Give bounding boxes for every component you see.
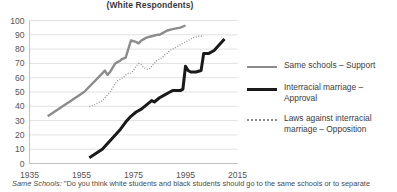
y-tick-label-30: 30 <box>15 116 25 126</box>
footnote-source-label: Same Schools: <box>12 179 62 188</box>
legend-label-same-schools: Same schools – Support <box>284 60 375 71</box>
y-tick-label-40: 40 <box>15 101 25 111</box>
y-tick-label-10: 10 <box>15 144 25 154</box>
legend-item-laws-against: Laws against interracial marriage – Oppo… <box>247 113 397 135</box>
y-tick-label-50: 50 <box>15 87 25 97</box>
chart-page: (White Respondents) 01020304050607080901… <box>0 0 397 192</box>
y-tick-label-20: 20 <box>15 130 25 140</box>
legend-swatch-same-schools <box>247 61 277 73</box>
y-tick-label-0: 0 <box>20 159 25 169</box>
x-tick-label-2015: 2015 <box>228 170 247 180</box>
x-tick-label-1995: 1995 <box>176 170 195 180</box>
y-tick-label-60: 60 <box>15 73 25 83</box>
footnote-text: "Do you think white students and black s… <box>62 179 370 188</box>
legend-swatch-interracial-marriage <box>247 83 277 95</box>
legend-swatch-laws-against <box>247 114 277 126</box>
y-tick-label-100: 100 <box>10 16 25 26</box>
y-tick-labels-group: 0102030405060708090100 <box>10 16 25 169</box>
chart-legend: Same schools – Support Interracial marri… <box>247 60 397 144</box>
y-tick-label-70: 70 <box>15 58 25 68</box>
y-tick-label-90: 90 <box>15 30 25 40</box>
x-tick-label-1975: 1975 <box>124 170 143 180</box>
x-tick-label-1955: 1955 <box>72 170 91 180</box>
legend-label-interracial-marriage: Interracial marriage – Approval <box>284 82 397 104</box>
x-tick-labels-group: 19351955197519952015 <box>20 170 247 180</box>
y-tick-label-80: 80 <box>15 44 25 54</box>
chart-footnote: Same Schools: "Do you think white studen… <box>12 179 397 188</box>
legend-label-laws-against: Laws against interracial marriage – Oppo… <box>284 113 372 135</box>
series-line-0 <box>48 26 186 117</box>
legend-item-same-schools: Same schools – Support <box>247 60 397 73</box>
legend-item-interracial-marriage: Interracial marriage – Approval <box>247 82 397 104</box>
series-line-2 <box>89 39 224 158</box>
x-tick-label-1935: 1935 <box>20 170 39 180</box>
